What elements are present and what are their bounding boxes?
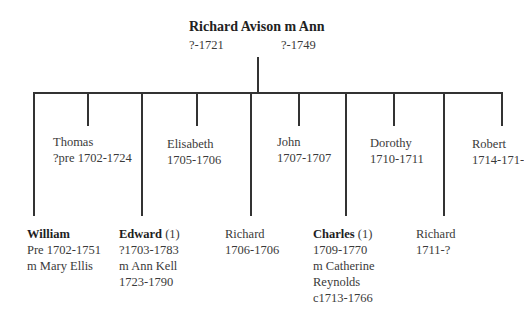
child-dates: ?pre 1702-1724 [53, 150, 132, 166]
child-node-charles: Charles (1) 1709-1770 m Catherine Reynol… [313, 226, 374, 306]
drop-line-thomas [87, 92, 89, 126]
child-note: (1) [165, 227, 180, 241]
child-node-elisabeth: Elisabeth 1705-1706 [167, 136, 221, 168]
drop-line-edward [141, 92, 143, 216]
child-node-edward: Edward (1) ?1703-1783 m Ann Kell 1723-17… [119, 226, 180, 290]
drop-line-john [298, 92, 300, 126]
child-dates: 1710-1711 [370, 151, 424, 167]
child-node-john: John 1707-1707 [277, 134, 331, 166]
child-name: Edward [119, 227, 162, 241]
child-name: Charles [313, 227, 355, 241]
child-name: Dorothy [370, 135, 424, 151]
child-dates: 1711-? [416, 242, 456, 258]
drop-line-robert [501, 92, 503, 126]
child-note: (1) [358, 227, 373, 241]
child-node-richard-1711: Richard 1711-? [416, 226, 456, 258]
drop-line-dorothy [393, 92, 395, 126]
child-dates: 1714-171- [472, 152, 524, 168]
child-spouse: m Catherine [313, 258, 374, 274]
sibling-bar [33, 92, 502, 94]
drop-line-richard-1711 [443, 92, 445, 216]
child-spouse: m Ann Kell [119, 258, 180, 274]
child-name: Richard [416, 226, 456, 242]
child-node-thomas: Thomas ?pre 1702-1724 [53, 134, 132, 166]
child-dates: Pre 1702-1751 [27, 242, 101, 258]
child-node-dorothy: Dorothy 1710-1711 [370, 135, 424, 167]
parent-drop-line [257, 57, 259, 93]
child-name: William [27, 227, 70, 241]
child-node-robert: Robert 1714-171- [472, 136, 524, 168]
drop-line-richard-1706 [250, 92, 252, 216]
child-name: Richard [225, 226, 279, 242]
drop-line-charles [345, 92, 347, 216]
child-dates: 1706-1706 [225, 242, 279, 258]
parents-title: Richard Avison m Ann [189, 19, 325, 35]
child-name: Elisabeth [167, 136, 221, 152]
child-spouse-cont: Reynolds [313, 274, 374, 290]
spouse-dates: 1723-1790 [119, 274, 180, 290]
child-dates: 1705-1706 [167, 152, 221, 168]
father-dates: ?-1721 [189, 37, 224, 53]
child-name: Thomas [53, 134, 132, 150]
child-dates: 1707-1707 [277, 150, 331, 166]
child-node-richard-1706: Richard 1706-1706 [225, 226, 279, 258]
mother-dates: ?-1749 [281, 37, 316, 53]
drop-line-william [33, 92, 35, 216]
child-dates: ?1703-1783 [119, 242, 180, 258]
child-spouse: m Mary Ellis [27, 258, 101, 274]
child-dates: 1709-1770 [313, 242, 374, 258]
drop-line-elisabeth [196, 92, 198, 126]
child-name: Robert [472, 136, 524, 152]
child-node-william: William Pre 1702-1751 m Mary Ellis [27, 226, 101, 274]
spouse-dates: c1713-1766 [313, 290, 374, 306]
child-name: John [277, 134, 331, 150]
